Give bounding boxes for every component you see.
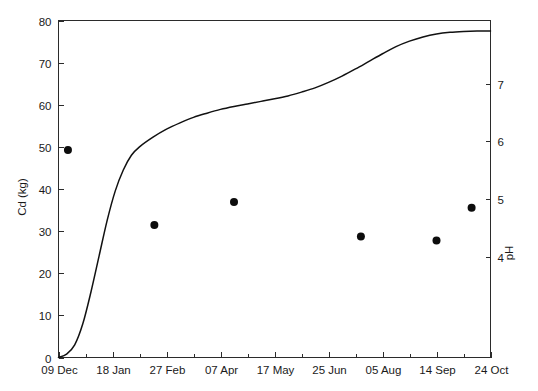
y-tick-label: 30 — [39, 226, 52, 238]
ph-point — [468, 204, 476, 212]
y2-tick-label: 6 — [498, 136, 504, 148]
ph-data-points — [64, 146, 476, 244]
chart-plot-area: 01020304050607080 4567 09 Dec18 Jan27 Fe… — [0, 0, 538, 391]
y-tick-label: 60 — [39, 100, 52, 112]
chart-figure: 01020304050607080 4567 09 Dec18 Jan27 Fe… — [0, 0, 538, 391]
x-tick-label: 25 Jun — [312, 364, 347, 376]
ph-point — [230, 198, 238, 206]
y-axis-ticks — [59, 22, 64, 359]
y-tick-label: 40 — [39, 184, 52, 196]
y-tick-label: 10 — [39, 310, 52, 322]
x-tick-label: 14 Sep — [419, 364, 455, 376]
y2-tick-label: 7 — [498, 79, 504, 91]
y2-tick-label: 5 — [498, 194, 504, 206]
ph-point — [357, 233, 365, 241]
cd-release-curve — [59, 31, 491, 358]
y2-axis-tick-labels: 4567 — [498, 79, 505, 264]
y2-axis-ticks — [486, 85, 491, 258]
y-tick-label: 70 — [39, 58, 52, 70]
y-tick-label: 20 — [39, 268, 52, 280]
x-axis-major-ticks — [60, 352, 492, 358]
y-tick-label: 50 — [39, 142, 52, 154]
x-tick-label: 17 May — [257, 364, 295, 376]
x-axis-tick-labels: 09 Dec18 Jan27 Feb07 Apr17 May25 Jun05 A… — [41, 364, 509, 376]
ph-point — [150, 221, 158, 229]
y-axis-title: Cd (kg) — [16, 178, 28, 216]
x-tick-label: 07 Apr — [205, 364, 238, 376]
x-tick-label: 05 Aug — [366, 364, 402, 376]
x-tick-label: 24 Oct — [475, 364, 510, 376]
x-tick-label: 27 Feb — [150, 364, 186, 376]
y-axis-tick-labels: 01020304050607080 — [39, 16, 52, 365]
y-tick-label: 80 — [39, 16, 52, 28]
x-tick-label: 09 Dec — [41, 364, 78, 376]
plot-frame — [59, 21, 491, 358]
ph-point — [64, 146, 72, 154]
x-tick-label: 18 Jan — [96, 364, 131, 376]
y2-axis-title: pH — [503, 246, 515, 261]
ph-point — [433, 237, 441, 245]
